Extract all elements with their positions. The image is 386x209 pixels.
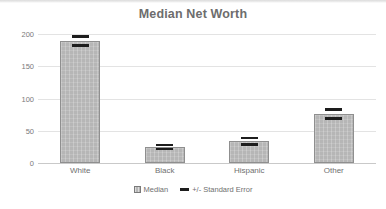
error-bar-upper-cap — [156, 144, 173, 147]
bar-group[interactable] — [38, 34, 123, 163]
y-tick-label: 50 — [4, 126, 34, 135]
top-edge-band — [0, 0, 386, 3]
y-tick-label: 200 — [4, 30, 34, 39]
y-tick-label: 150 — [4, 62, 34, 71]
chart-legend: Median+/- Standard Error — [0, 185, 386, 194]
x-axis: WhiteBlackHispanicOther — [38, 166, 376, 180]
x-tick-label-black: Black — [123, 166, 208, 175]
gridline-0 — [38, 163, 376, 164]
legend-label: +/- Standard Error — [192, 185, 252, 194]
median-swatch-icon — [134, 186, 141, 193]
legend-item-standard-error[interactable]: +/- Standard Error — [180, 185, 252, 194]
error-bar-lower-cap — [72, 44, 89, 47]
error-bar-swatch-icon — [180, 188, 189, 191]
error-bar-lower-cap — [325, 117, 342, 120]
bar-group[interactable] — [292, 34, 377, 163]
y-tick-label: 100 — [4, 94, 34, 103]
error-bar-lower-cap — [241, 143, 258, 146]
legend-label: Median — [144, 185, 169, 194]
chart-container: Median Net Worth 050100150200 WhiteBlack… — [0, 0, 386, 209]
bar-other[interactable] — [314, 114, 354, 163]
x-tick-label-hispanic: Hispanic — [207, 166, 292, 175]
y-axis: 050100150200 — [0, 34, 34, 163]
error-bar-upper-cap — [325, 108, 342, 111]
legend-item-median[interactable]: Median — [134, 185, 169, 194]
bars-layer — [38, 34, 376, 163]
error-bar-upper-cap — [241, 137, 258, 140]
bar-white[interactable] — [60, 41, 100, 163]
bar-group[interactable] — [123, 34, 208, 163]
error-bar-upper-cap — [72, 35, 89, 38]
y-tick-label: 0 — [4, 159, 34, 168]
chart-title: Median Net Worth — [0, 7, 386, 21]
x-tick-label-white: White — [38, 166, 123, 175]
error-bar-lower-cap — [156, 148, 173, 151]
bar-group[interactable] — [207, 34, 292, 163]
x-tick-label-other: Other — [292, 166, 377, 175]
